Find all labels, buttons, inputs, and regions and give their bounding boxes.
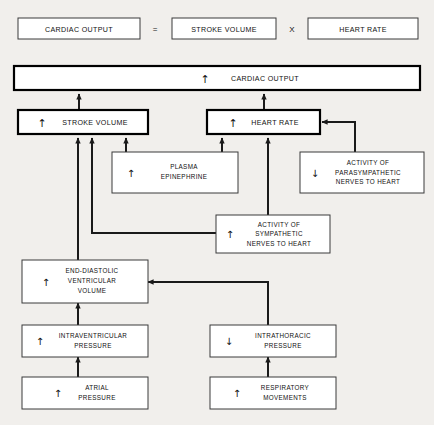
atrial-pressure-arrow: ↑ [54, 388, 62, 399]
times-sign: X [289, 25, 295, 34]
parasympathetic-line1: ACTIVITY OF [347, 159, 390, 166]
node-heart-rate: ↑ HEART RATE [207, 110, 320, 134]
end-diastolic-line2: VENTRICULAR [68, 277, 116, 284]
node-atrial-pressure: ↑ ATRIAL PRESSURE [22, 377, 148, 409]
node-stroke-volume: ↑ STROKE VOLUME [18, 110, 148, 134]
intraventricular-line1: INTRAVENTRICULAR [59, 332, 128, 339]
plasma-epinephrine-line2: EPINEPHRINE [161, 173, 208, 180]
atrial-pressure-box [22, 377, 148, 409]
intrathoracic-arrow: ↓ [225, 336, 233, 347]
sympathetic-arrow: ↑ [226, 229, 234, 240]
node-sympathetic: ↑ ACTIVITY OF SYMPATHETIC NERVES TO HEAR… [216, 215, 330, 253]
respiratory-movements-line1: RESPIRATORY [261, 384, 310, 391]
respiratory-movements-arrow: ↑ [233, 388, 241, 399]
node-respiratory-movements: ↑ RESPIRATORY MOVEMENTS [210, 377, 336, 409]
cardiac-output-label: CARDIAC OUTPUT [231, 75, 299, 83]
respiratory-movements-line2: MOVEMENTS [263, 394, 307, 401]
node-plasma-epinephrine: ↑ PLASMA EPINEPHRINE [112, 152, 238, 193]
end-diastolic-arrow: ↑ [42, 277, 50, 288]
stroke-volume-label: STROKE VOLUME [62, 119, 128, 127]
plasma-epinephrine-arrow: ↑ [127, 168, 135, 179]
node-cardiac-output: ↑ CARDIAC OUTPUT [14, 66, 420, 90]
equation-row: CARDIAC OUTPUT = STROKE VOLUME X HEART R… [18, 18, 418, 39]
end-diastolic-line1: END-DIASTOLIC [65, 267, 118, 274]
node-end-diastolic-volume: ↑ END-DIASTOLIC VENTRICULAR VOLUME [22, 260, 148, 303]
cardiac-output-arrow: ↑ [200, 73, 209, 86]
sympathetic-line3: NERVES TO HEART [247, 240, 311, 247]
node-intraventricular-pressure: ↑ INTRAVENTRICULAR PRESSURE [22, 325, 148, 357]
connector-parasympathetic-to-heart-rate [322, 122, 355, 152]
equation-cardiac-output-label: CARDIAC OUTPUT [45, 26, 113, 34]
atrial-pressure-line2: PRESSURE [78, 394, 115, 401]
parasympathetic-line3: NERVES TO HEART [336, 178, 400, 185]
equation-heart-rate-label: HEART RATE [339, 26, 387, 34]
cardiac-output-flowchart: CARDIAC OUTPUT = STROKE VOLUME X HEART R… [0, 0, 434, 425]
cardiac-output-box [14, 66, 420, 90]
connector-intrathoracic-to-end-diastolic [148, 282, 268, 325]
node-intrathoracic-pressure: ↓ INTRATHORACIC PRESSURE [210, 325, 336, 357]
parasympathetic-arrow: ↓ [311, 168, 319, 179]
intraventricular-arrow: ↑ [36, 336, 44, 347]
heart-rate-arrow: ↑ [228, 117, 237, 130]
parasympathetic-line2: PARASYMPATHETIC [335, 169, 401, 176]
intrathoracic-line2: PRESSURE [264, 342, 301, 349]
stroke-volume-arrow: ↑ [37, 117, 46, 130]
equals-sign: = [153, 25, 158, 34]
sympathetic-line1: ACTIVITY OF [258, 221, 301, 228]
intrathoracic-line1: INTRATHORACIC [255, 332, 311, 339]
plasma-epinephrine-line1: PLASMA [170, 163, 198, 170]
heart-rate-label: HEART RATE [251, 119, 299, 127]
atrial-pressure-line1: ATRIAL [85, 384, 109, 391]
respiratory-movements-box [210, 377, 336, 409]
sympathetic-line2: SYMPATHETIC [255, 230, 303, 237]
equation-stroke-volume-label: STROKE VOLUME [191, 26, 257, 34]
node-parasympathetic: ↓ ACTIVITY OF PARASYMPATHETIC NERVES TO … [300, 152, 424, 193]
intraventricular-line2: PRESSURE [74, 342, 111, 349]
end-diastolic-line3: VOLUME [78, 287, 107, 294]
